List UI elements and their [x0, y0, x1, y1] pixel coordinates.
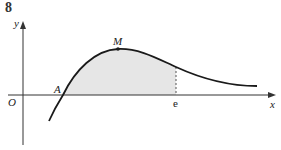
point-m	[116, 47, 120, 51]
point-m-label: M	[112, 35, 123, 47]
x-axis-label: x	[269, 98, 275, 110]
point-a-label: A	[53, 83, 61, 95]
e-label: e	[173, 97, 178, 109]
shaded-region	[63, 49, 176, 95]
origin-label: O	[8, 96, 16, 108]
y-axis-arrow-icon	[20, 21, 26, 29]
graph: y x O A M e	[0, 0, 281, 150]
y-axis-label: y	[13, 17, 19, 29]
